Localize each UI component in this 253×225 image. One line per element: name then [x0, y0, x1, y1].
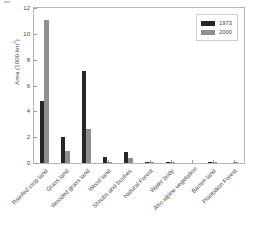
bar-2000 — [170, 162, 175, 163]
bar-group — [187, 8, 197, 163]
bar-group — [40, 8, 50, 163]
bar-group — [124, 8, 134, 163]
y-tick-mark — [34, 8, 37, 9]
bar-group — [82, 8, 92, 163]
bar-2000 — [233, 162, 238, 163]
y-axis-title-base: Area (1000 km — [13, 44, 20, 85]
y-axis-title-close: ) — [13, 39, 20, 41]
y-tick-mark — [34, 86, 37, 87]
bar-2000 — [44, 20, 49, 163]
y-axis-title-exponent: 2 — [12, 41, 17, 44]
y-tick-label: 12 — [17, 5, 30, 11]
bar-group — [166, 8, 176, 163]
y-tick-label: 4 — [17, 108, 30, 114]
legend-label-2000: 2000 — [219, 29, 232, 35]
y-tick-mark — [34, 60, 37, 61]
legend-item-2000: 2000 — [201, 28, 232, 36]
y-tick-mark — [34, 111, 37, 112]
legend-swatch-1973 — [201, 21, 215, 26]
y-tick-label: 8 — [17, 57, 30, 63]
legend: 1973 2000 — [196, 14, 238, 41]
bar-group — [61, 8, 71, 163]
bar-2000 — [212, 162, 217, 163]
bar-2000 — [86, 129, 91, 163]
bar-2000 — [149, 162, 154, 163]
bar-group — [145, 8, 155, 163]
y-tick-label: 2 — [17, 134, 30, 140]
y-tick-label: 6 — [17, 83, 30, 89]
y-tick-mark — [34, 163, 37, 164]
bar-group — [103, 8, 113, 163]
y-tick-label: 10 — [17, 31, 30, 37]
bar-chart-figure: Area (1000 km2) 024681012 1973 2000 Rain… — [0, 0, 253, 225]
bar-2000 — [65, 151, 70, 163]
bar-2000 — [107, 162, 112, 163]
plot-area: 024681012 1973 2000 — [33, 7, 245, 164]
legend-label-1973: 1973 — [219, 20, 232, 26]
y-tick-label: 0 — [17, 160, 30, 166]
scan-artifact — [4, 1, 10, 3]
bar-2000 — [128, 158, 133, 163]
y-tick-mark — [34, 34, 37, 35]
legend-item-1973: 1973 — [201, 19, 232, 27]
y-tick-mark — [34, 137, 37, 138]
legend-swatch-2000 — [201, 30, 215, 35]
